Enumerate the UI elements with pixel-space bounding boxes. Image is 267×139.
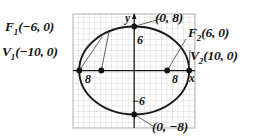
tick-label-x-right: 8	[172, 73, 178, 85]
label-co-vertex-top: (0, 8)	[155, 11, 183, 25]
point-focus-1	[98, 68, 104, 74]
point-co-vertex-top	[131, 24, 137, 30]
label-focus-1-coords: (−6, 0)	[18, 19, 54, 34]
label-vertex-2-coords: (10, 0)	[203, 48, 238, 63]
label-vertex-1-prefix: V	[2, 44, 11, 59]
tick-label-y-negative: −6	[132, 95, 145, 107]
label-vertex-1-coords: (−10, 0)	[15, 44, 58, 59]
point-focus-2	[164, 68, 170, 74]
tick-label-x-left: 8	[85, 73, 91, 85]
label-vertex-1: V1(−10, 0)	[2, 45, 58, 62]
label-focus-1: F1(−6, 0)	[5, 20, 54, 37]
label-co-vertex-bottom: (0, −8)	[152, 120, 188, 134]
x-axis-label: x	[189, 73, 195, 85]
y-axis-label: y	[125, 13, 130, 25]
label-vertex-2-prefix: V	[190, 48, 199, 63]
label-focus-2-coords: (6, 0)	[201, 25, 229, 40]
tick-label-y-positive: 6	[137, 34, 143, 46]
label-focus-2: F2(6, 0)	[188, 26, 229, 43]
label-co-vertex-top-coords: (0, 8)	[155, 10, 183, 25]
label-co-vertex-bottom-coords: (0, −8)	[152, 119, 188, 134]
label-focus-2-prefix: F	[188, 25, 197, 40]
point-vertex-1	[76, 68, 82, 74]
label-focus-1-prefix: F	[5, 19, 14, 34]
label-vertex-2: V2(10, 0)	[190, 49, 238, 66]
point-co-vertex-bottom	[131, 112, 137, 118]
